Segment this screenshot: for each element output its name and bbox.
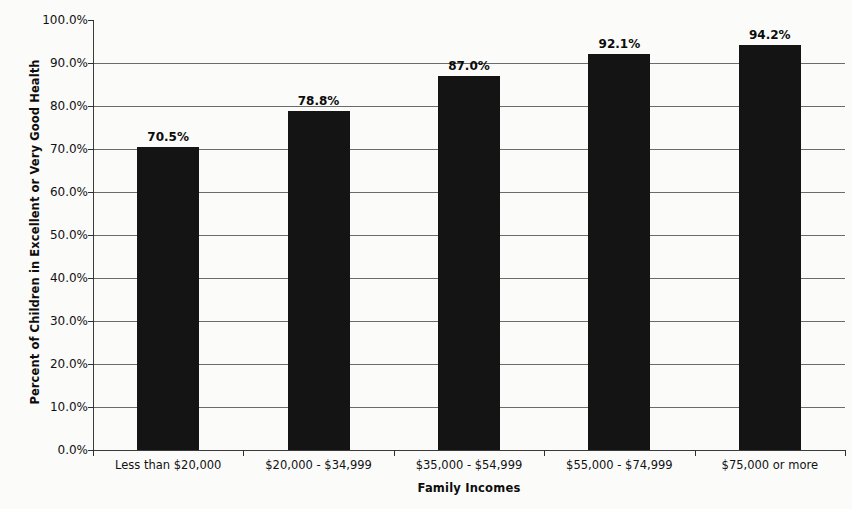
bar-value-label: 87.0% xyxy=(409,59,529,76)
y-axis-tick-mark xyxy=(88,63,94,64)
bar-value-label: 92.1% xyxy=(559,37,679,54)
bar-value-label: 78.8% xyxy=(259,94,379,111)
y-axis-tick-label: 0.0% xyxy=(40,443,88,457)
y-axis-tick-mark xyxy=(88,407,94,408)
x-axis-tick-mark xyxy=(544,450,545,456)
x-axis-line xyxy=(93,450,845,451)
y-axis-tick-mark xyxy=(88,235,94,236)
x-axis-tick-mark xyxy=(845,450,846,456)
y-axis-tick-mark xyxy=(88,278,94,279)
bar xyxy=(137,147,199,450)
y-axis-tick-mark xyxy=(88,364,94,365)
y-axis-tick-mark xyxy=(88,192,94,193)
y-axis-tick-labels: 0.0%10.0%20.0%30.0%40.0%50.0%60.0%70.0%8… xyxy=(40,0,88,509)
y-axis-tick-label: 80.0% xyxy=(40,99,88,113)
x-axis-tick-mark xyxy=(93,450,94,456)
y-axis-tick-label: 10.0% xyxy=(40,400,88,414)
bar-value-label: 94.2% xyxy=(710,28,830,45)
x-axis-tick-mark xyxy=(243,450,244,456)
x-axis-category-label: $75,000 or more xyxy=(695,458,845,472)
y-axis-tick-mark xyxy=(88,106,94,107)
plot-area: 70.5%Less than $20,00078.8%$20,000 - $34… xyxy=(93,20,845,450)
bar xyxy=(739,45,801,450)
x-axis-tick-mark xyxy=(394,450,395,456)
x-axis-category-label: $20,000 - $34,999 xyxy=(243,458,393,472)
x-axis-category-label: Less than $20,000 xyxy=(93,458,243,472)
bar-value-label: 70.5% xyxy=(108,130,228,147)
y-axis-tick-label: 90.0% xyxy=(40,56,88,70)
y-axis-tick-label: 50.0% xyxy=(40,228,88,242)
y-axis-tick-label: 100.0% xyxy=(40,13,88,27)
x-axis-category-label: $55,000 - $74,999 xyxy=(544,458,694,472)
y-axis-tick-label: 60.0% xyxy=(40,185,88,199)
bar xyxy=(588,54,650,450)
y-axis-tick-mark xyxy=(88,149,94,150)
bar xyxy=(438,76,500,450)
y-axis-tick-label: 30.0% xyxy=(40,314,88,328)
x-axis-category-label: $35,000 - $54,999 xyxy=(394,458,544,472)
x-axis-tick-mark xyxy=(695,450,696,456)
bar xyxy=(288,111,350,450)
y-axis-tick-label: 70.0% xyxy=(40,142,88,156)
y-axis-tick-label: 20.0% xyxy=(40,357,88,371)
y-axis-tick-mark xyxy=(88,20,94,21)
y-axis-tick-mark xyxy=(88,321,94,322)
x-axis-title: Family Incomes xyxy=(93,481,845,495)
y-axis-tick-label: 40.0% xyxy=(40,271,88,285)
bar-chart: Percent of Children in Excellent or Very… xyxy=(0,0,852,509)
